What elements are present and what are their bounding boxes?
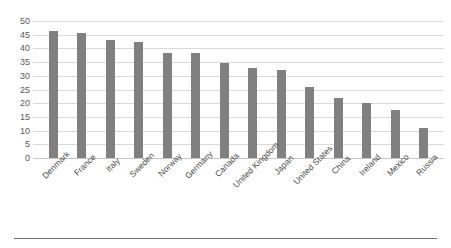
- bar-slot: [267, 21, 296, 158]
- bar-slot: [125, 21, 154, 158]
- x-tick-slot: Italy: [96, 159, 125, 231]
- bar[interactable]: [49, 31, 58, 158]
- x-tick-slot: United States: [296, 159, 325, 231]
- y-tick-label: 15: [4, 112, 30, 121]
- bar[interactable]: [419, 128, 428, 158]
- x-tick-slot: Denmark: [39, 159, 68, 231]
- y-axis: 05101520253035404550: [0, 21, 30, 158]
- bar-slot: [39, 21, 68, 158]
- bar-slot: [296, 21, 325, 158]
- y-tick-label: 30: [4, 71, 30, 80]
- x-tick-slot: United Kingdom: [239, 159, 268, 231]
- bar[interactable]: [391, 110, 400, 158]
- bar-slot: [210, 21, 239, 158]
- y-tick-label: 10: [4, 126, 30, 135]
- bar[interactable]: [220, 63, 229, 158]
- y-tick-label: 25: [4, 85, 30, 94]
- bar[interactable]: [248, 68, 257, 158]
- x-tick-slot: Canada: [210, 159, 239, 231]
- bar-slot: [324, 21, 353, 158]
- y-tick-label: 45: [4, 30, 30, 39]
- y-tick-label: 35: [4, 58, 30, 67]
- x-axis: DenmarkFranceItalySwedenNorwayGermanyCan…: [33, 159, 444, 231]
- bar-slot: [410, 21, 439, 158]
- x-tick-slot: Ireland: [353, 159, 382, 231]
- x-tick-slot: Russia: [410, 159, 439, 231]
- y-tick-label: 40: [4, 44, 30, 53]
- x-tick-slot: Norway: [153, 159, 182, 231]
- x-tick-slot: Sweden: [125, 159, 154, 231]
- x-tick-slot: Germany: [182, 159, 211, 231]
- bar-slot: [239, 21, 268, 158]
- bar-slot: [353, 21, 382, 158]
- x-tick-slot: Mexico: [381, 159, 410, 231]
- y-tick-label: 50: [4, 17, 30, 26]
- y-tick-label: 5: [4, 140, 30, 149]
- x-tick-slot: Japan: [267, 159, 296, 231]
- bar[interactable]: [106, 40, 115, 158]
- footer-divider: [14, 238, 437, 239]
- bar-slot: [381, 21, 410, 158]
- bar[interactable]: [334, 98, 343, 158]
- bar[interactable]: [134, 42, 143, 158]
- bar[interactable]: [191, 53, 200, 158]
- y-tick-label: 0: [4, 154, 30, 163]
- y-tick-label: 20: [4, 99, 30, 108]
- bar[interactable]: [163, 53, 172, 158]
- bar[interactable]: [305, 87, 314, 158]
- bar-slot: [96, 21, 125, 158]
- bar[interactable]: [362, 103, 371, 158]
- bar-slot: [68, 21, 97, 158]
- bar-slot: [153, 21, 182, 158]
- bar-slot: [182, 21, 211, 158]
- bar-series: [33, 21, 444, 158]
- bar-chart-figure: 05101520253035404550 DenmarkFranceItalyS…: [0, 0, 451, 248]
- plot-area: [33, 21, 444, 158]
- bar[interactable]: [77, 33, 86, 158]
- x-tick-label: Italy: [105, 156, 122, 173]
- x-tick-slot: China: [324, 159, 353, 231]
- x-tick-slot: France: [68, 159, 97, 231]
